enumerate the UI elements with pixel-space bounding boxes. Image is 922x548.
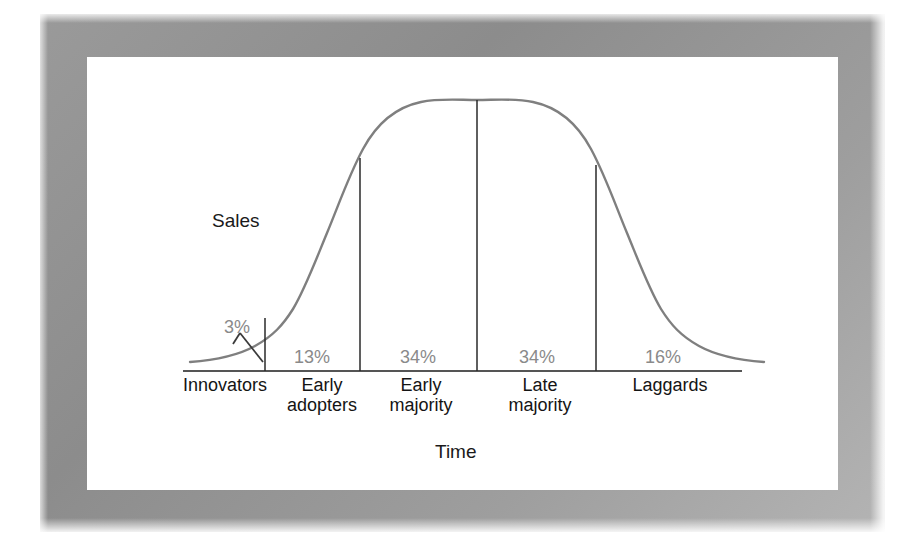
y-axis-title: Sales [212,210,260,231]
category-label-innovators: Innovators [170,375,280,395]
x-axis-title: Time [435,441,477,462]
category-label-early-adopters: Early adopters [274,375,370,415]
figure-root: Sales Time 3% 13% 34% 34% 16% Innovators… [0,0,922,548]
adoption-curve-svg [87,57,838,490]
callout-leader-line [240,333,263,362]
category-early-majority-line2: majority [373,395,469,415]
callout-label-3-percent: 3% [215,317,259,337]
category-laggards-line1: Laggards [632,375,707,395]
percent-early-adopters: 13% [281,347,343,367]
category-late-majority-line1: Late [522,375,557,395]
percent-early-majority: 34% [387,347,449,367]
category-early-adopters-line2: adopters [274,395,370,415]
percent-laggards: 16% [632,347,694,367]
chart-canvas: Sales Time 3% 13% 34% 34% 16% Innovators… [87,57,838,490]
category-label-laggards: Laggards [615,375,725,395]
percent-late-majority: 34% [506,347,568,367]
category-early-adopters-line1: Early [301,375,342,395]
category-late-majority-line2: majority [492,395,588,415]
category-early-majority-line1: Early [400,375,441,395]
category-label-late-majority: Late majority [492,375,588,415]
category-innovators-line1: Innovators [183,375,267,395]
category-label-early-majority: Early majority [373,375,469,415]
